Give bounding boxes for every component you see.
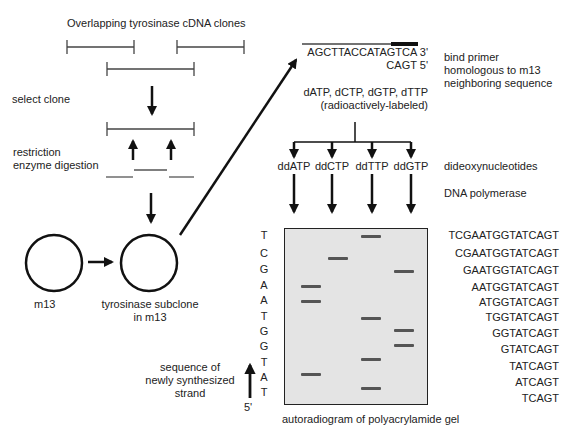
read-letter: A [258,294,270,307]
lane-label-ddttp: ddTTP [352,160,392,173]
band-T [361,358,381,361]
lane-label-ddctp: ddCTP [312,160,352,173]
autoradiogram-gel [284,228,428,405]
selected-clone [107,122,194,136]
branch-arrows [294,142,411,157]
nucleotides-line-1: dATP, dCTP, dGTP, dTTP [290,86,428,99]
band-A [301,300,321,303]
read-letter: T [258,356,270,369]
subclone-label-2: in m13 [96,311,204,324]
fragment-sequence: GTATCAGT [501,343,559,356]
band-C [328,257,348,260]
band-A [301,373,321,376]
primer-sequence: CAGT 5' [290,59,428,72]
band-T [361,317,381,320]
template-sequence: AGCTTACCATAGTCA 3' [290,46,428,59]
fragment-sequence: TCAGT [522,392,559,405]
read-letter: C [258,247,270,260]
strand-label-3: strand [140,387,240,400]
primer-description-2: homologous to m13 [444,64,541,77]
branch-lines [294,122,411,142]
dideoxy-label: dideoxynucleotides [444,160,538,173]
read-letter: A [258,279,270,292]
fragment-sequence: TGGTATCAGT [485,311,559,324]
m13-circle [26,235,82,291]
read-letter: G [258,325,270,338]
read-letter: G [258,340,270,353]
select-clone-label: select clone [12,93,70,106]
band-G [394,329,414,332]
read-letter: T [258,310,270,323]
restriction-label-1: restriction [13,146,61,159]
fragment-sequence: TCGAATGGTATCAGT [448,229,559,242]
restriction-label-2: enzyme digestion [13,159,99,172]
fragment-sequence: AATGGTATCAGT [472,281,559,294]
gel-caption: autoradiogram of polyacrylamide gel [282,413,459,426]
clones-title: Overlapping tyrosinase cDNA clones [67,17,246,30]
strand-label-2: newly synthesized [140,374,240,387]
read-letter: A [258,371,270,384]
m13-label: m13 [34,298,55,311]
primer-description-1: bind primer [444,51,499,64]
polymerase-arrows [294,174,411,212]
polymerase-label: DNA polymerase [444,187,527,200]
subclone-label-1: tyrosinase subclone [96,298,204,311]
strand-5prime-label: 5' [244,401,252,414]
lane-label-ddgtp: ddGTP [391,160,431,173]
read-letter: T [258,229,270,242]
band-T [361,387,381,390]
fragment-sequence: ATGGTATCAGT [479,296,559,309]
fragment-sequence: CGAATGGTATCAGT [455,247,559,260]
fragment-sequence: ATCAGT [515,376,559,389]
band-A [301,285,321,288]
subclone-circle [121,235,177,291]
strand-label-1: sequence of [140,361,240,374]
clone-fragments [67,40,244,76]
to-sequencing-arrow [180,60,296,235]
band-T [361,235,381,238]
band-G [394,344,414,347]
fragment-sequence: TATCAGT [509,360,559,373]
read-letter: G [258,263,270,276]
fragment-sequence: GAATGGTATCAGT [463,264,559,277]
digested-fragments [106,170,194,177]
primer-description-3: neighboring sequence [444,77,552,90]
lane-label-ddatp: ddATP [274,160,314,173]
fragment-sequence: GGTATCAGT [492,327,559,340]
band-G [394,270,414,273]
read-letter: T [258,386,270,399]
nucleotides-line-2: (radioactively-labeled) [290,99,428,112]
